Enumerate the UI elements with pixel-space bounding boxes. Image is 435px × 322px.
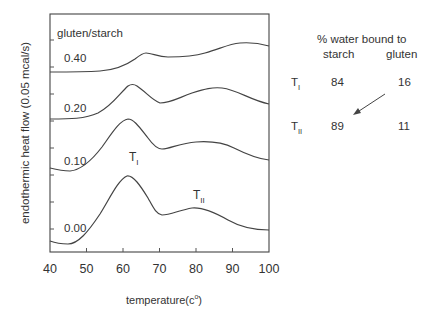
water-bound-table: % water bound to starch gluten TI 84 16 … bbox=[291, 33, 417, 136]
annotation-t2: TII bbox=[193, 188, 205, 205]
cell-t1-starch: 84 bbox=[331, 76, 344, 88]
annotation-t1: TI bbox=[129, 150, 139, 167]
series-labels: gluten/starch 0.40 0.20 0.10 0.00 bbox=[57, 27, 123, 234]
cell-t2-starch: 89 bbox=[331, 120, 344, 132]
x-tick-label: 90 bbox=[226, 262, 240, 276]
series-label-0.10: 0.10 bbox=[64, 155, 86, 167]
curves bbox=[50, 43, 269, 244]
series-label-0.20: 0.20 bbox=[64, 102, 86, 114]
table-header-line1: % water bound to bbox=[317, 33, 407, 45]
row-label-t1: TI bbox=[291, 76, 300, 92]
legend-title: gluten/starch bbox=[57, 27, 123, 39]
table-header-starch: starch bbox=[323, 48, 354, 60]
cell-t2-gluten: 11 bbox=[398, 120, 410, 132]
x-tick-label: 100 bbox=[259, 262, 280, 276]
y-ticks bbox=[50, 40, 54, 229]
y-axis-label: endothermic heat flow (0.05 mcal/s) bbox=[19, 42, 31, 224]
x-tick-label: 40 bbox=[43, 262, 57, 276]
arrow-icon bbox=[353, 94, 385, 115]
series-label-0.00: 0.00 bbox=[64, 222, 86, 234]
cell-t1-gluten: 16 bbox=[398, 76, 411, 88]
x-axis-label: temperature(co) bbox=[126, 293, 202, 306]
dsc-chart: 40 50 60 70 80 90 100 temperature(co) en… bbox=[0, 0, 435, 322]
x-tick-labels: 40 50 60 70 80 90 100 bbox=[43, 262, 279, 276]
table-header-gluten: gluten bbox=[386, 48, 417, 60]
x-ticks bbox=[87, 248, 233, 252]
plot-frame bbox=[50, 14, 269, 252]
x-tick-label: 80 bbox=[189, 262, 203, 276]
series-label-0.40: 0.40 bbox=[64, 52, 86, 64]
row-label-t2: TII bbox=[291, 120, 302, 136]
x-tick-label: 50 bbox=[80, 262, 94, 276]
x-tick-label: 70 bbox=[153, 262, 167, 276]
x-tick-label: 60 bbox=[116, 262, 130, 276]
